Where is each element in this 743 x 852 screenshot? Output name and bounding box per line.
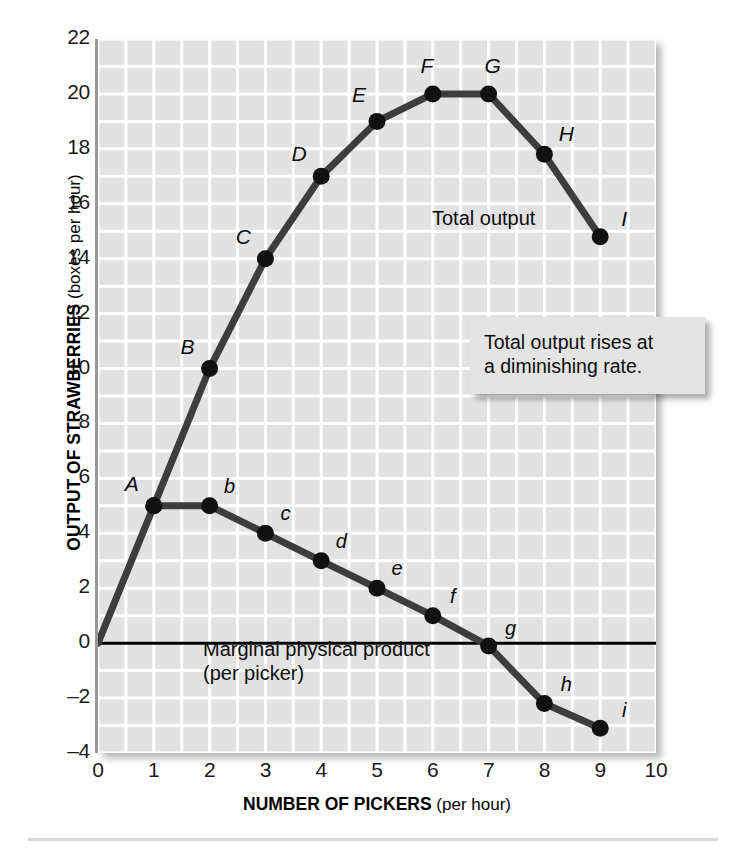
point-label-B: B — [181, 335, 195, 359]
y-axis-title-sub: (boxes per hour) — [65, 174, 84, 303]
point-label-i: i — [622, 699, 626, 722]
point-label-C: C — [236, 225, 251, 249]
x-tick-label: 8 — [524, 758, 564, 782]
callout-line2: a diminishing rate. — [484, 354, 693, 378]
y-axis-title-main: OUTPUT OF STRAWBERRIES — [64, 304, 84, 551]
point-label-f: f — [450, 584, 456, 607]
mpp-curve-label: Marginal physical product (per picker) — [203, 638, 430, 685]
mpp-label-line2: (per picker) — [203, 662, 430, 686]
x-tick-label: 6 — [413, 758, 453, 782]
diminishing-rate-callout: Total output rises at a diminishing rate… — [470, 317, 705, 394]
x-axis-title-sub: (per hour) — [432, 795, 511, 814]
x-tick-label: 7 — [469, 758, 509, 782]
x-tick-label: 2 — [190, 758, 230, 782]
figure-container: 2220181614121086420–2–4 012345678910 OUT… — [0, 0, 743, 852]
x-tick-label: 0 — [78, 758, 118, 782]
point-label-E: E — [352, 83, 366, 107]
x-tick-label: 4 — [301, 758, 341, 782]
point-label-H: H — [559, 122, 574, 146]
point-label-g: g — [505, 616, 516, 639]
x-tick-label: 3 — [245, 758, 285, 782]
y-axis-title: OUTPUT OF STRAWBERRIES (boxes per hour) — [64, 53, 85, 673]
y-tick-label: 22 — [50, 25, 90, 49]
x-tick-label: 1 — [134, 758, 174, 782]
x-axis-title-main: NUMBER OF PICKERS — [243, 794, 432, 814]
y-tick-label: –2 — [50, 684, 90, 708]
x-tick-label: 5 — [357, 758, 397, 782]
point-label-D: D — [292, 142, 307, 166]
x-axis-title: NUMBER OF PICKERS (per hour) — [98, 794, 656, 815]
point-label-G: G — [484, 54, 500, 78]
x-tick-label: 9 — [580, 758, 620, 782]
point-label-e: e — [391, 557, 402, 580]
point-label-b: b — [224, 474, 235, 497]
point-label-F: F — [420, 54, 433, 78]
x-tick-label: 10 — [636, 758, 676, 782]
footer-divider — [28, 838, 718, 841]
total-output-curve-label: Total output — [432, 207, 535, 231]
point-label-d: d — [336, 529, 347, 552]
x-axis-tick-labels: 012345678910 — [98, 758, 656, 792]
point-label-h: h — [561, 672, 572, 695]
point-label-c: c — [280, 502, 290, 525]
mpp-label-line1: Marginal physical product — [203, 638, 430, 662]
point-label-I: I — [621, 207, 627, 231]
point-label-A: A — [125, 472, 139, 496]
callout-line1: Total output rises at — [484, 330, 693, 354]
